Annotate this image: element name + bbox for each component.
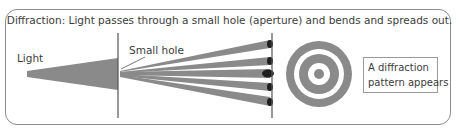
incoming-light-beam <box>27 58 118 90</box>
diffracted-beams <box>120 40 270 106</box>
result-caption-line-1: A diffraction <box>368 60 437 75</box>
result-caption-line-2: pattern appears <box>368 75 437 90</box>
result-caption-box: A diffraction pattern appears <box>363 57 438 93</box>
diffraction-pattern-rings <box>286 41 352 107</box>
center-dot <box>314 69 324 79</box>
